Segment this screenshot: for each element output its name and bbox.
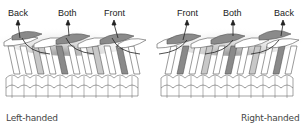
caption-left-handed: Left-handed [6,113,58,123]
label-front: Front [177,8,198,18]
right-handed-panel: Front Both Back Right-handed [153,0,303,130]
label-back: Back [274,8,294,18]
label-both: Both [223,8,242,18]
caption-right-handed: Right-handed [241,113,299,123]
label-both: Both [58,8,77,18]
label-back: Back [8,8,28,18]
left-handed-panel: Back Both Front Left-handed [0,0,150,130]
label-front: Front [104,8,125,18]
